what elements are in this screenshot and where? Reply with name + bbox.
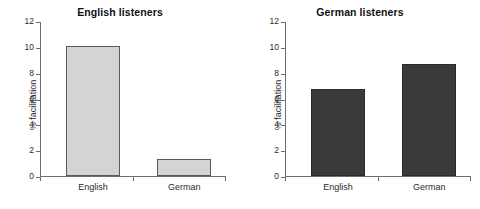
- plot-area-left: 024681012 EnglishGerman: [40, 22, 226, 177]
- y-tick-label: 0: [274, 171, 279, 181]
- y-tick-label: 6: [29, 94, 34, 104]
- y-tick-label: 4: [29, 119, 34, 129]
- x-tick-mark-0: [285, 177, 286, 181]
- y-axis-line-right: [285, 22, 286, 177]
- y-tick-label: 2: [29, 145, 34, 155]
- y-tick-label: 12: [270, 16, 279, 26]
- y-tick-mark: [36, 151, 40, 152]
- y-tick-mark: [36, 48, 40, 49]
- x-tick-label-english: English: [323, 182, 353, 192]
- y-tick-label: 10: [25, 42, 34, 52]
- y-tick-mark: [281, 22, 285, 23]
- x-tick-label-english: English: [78, 182, 108, 192]
- y-tick-mark: [281, 125, 285, 126]
- y-tick-label: 8: [274, 68, 279, 78]
- y-tick-mark: [281, 100, 285, 101]
- y-tick-mark: [36, 100, 40, 101]
- y-tick-label: 6: [274, 94, 279, 104]
- bar-english: [66, 46, 120, 176]
- y-tick-mark: [281, 151, 285, 152]
- y-tick-mark: [36, 22, 40, 23]
- x-tick-label-german: German: [413, 182, 446, 192]
- y-tick-label: 8: [29, 68, 34, 78]
- figure-two-panel-bar-chart: English listeners % facilitation 0246810…: [0, 0, 480, 209]
- y-tick-label: 10: [270, 42, 279, 52]
- panel-english-listeners: English listeners % facilitation 0246810…: [0, 0, 240, 209]
- y-tick-mark: [281, 74, 285, 75]
- y-tick-label: 12: [25, 16, 34, 26]
- y-tick-mark: [36, 125, 40, 126]
- y-axis-line-left: [40, 22, 41, 177]
- bar-english: [311, 89, 365, 176]
- x-tick-mark-1: [133, 177, 134, 181]
- x-tick-mark-2: [225, 177, 226, 181]
- panel-german-listeners: German listeners % facilitation 02468101…: [240, 0, 480, 209]
- bar-german: [402, 64, 456, 176]
- bar-german: [157, 159, 211, 176]
- x-tick-mark-0: [40, 177, 41, 181]
- y-tick-label: 2: [274, 145, 279, 155]
- panel-title-english-listeners: English listeners: [0, 6, 240, 18]
- y-tick-mark: [281, 48, 285, 49]
- y-tick-label: 4: [274, 119, 279, 129]
- x-tick-mark-2: [470, 177, 471, 181]
- x-tick-mark-1: [378, 177, 379, 181]
- y-tick-mark: [36, 74, 40, 75]
- plot-area-right: 024681012 EnglishGerman: [285, 22, 471, 177]
- y-tick-label: 0: [29, 171, 34, 181]
- x-tick-label-german: German: [168, 182, 201, 192]
